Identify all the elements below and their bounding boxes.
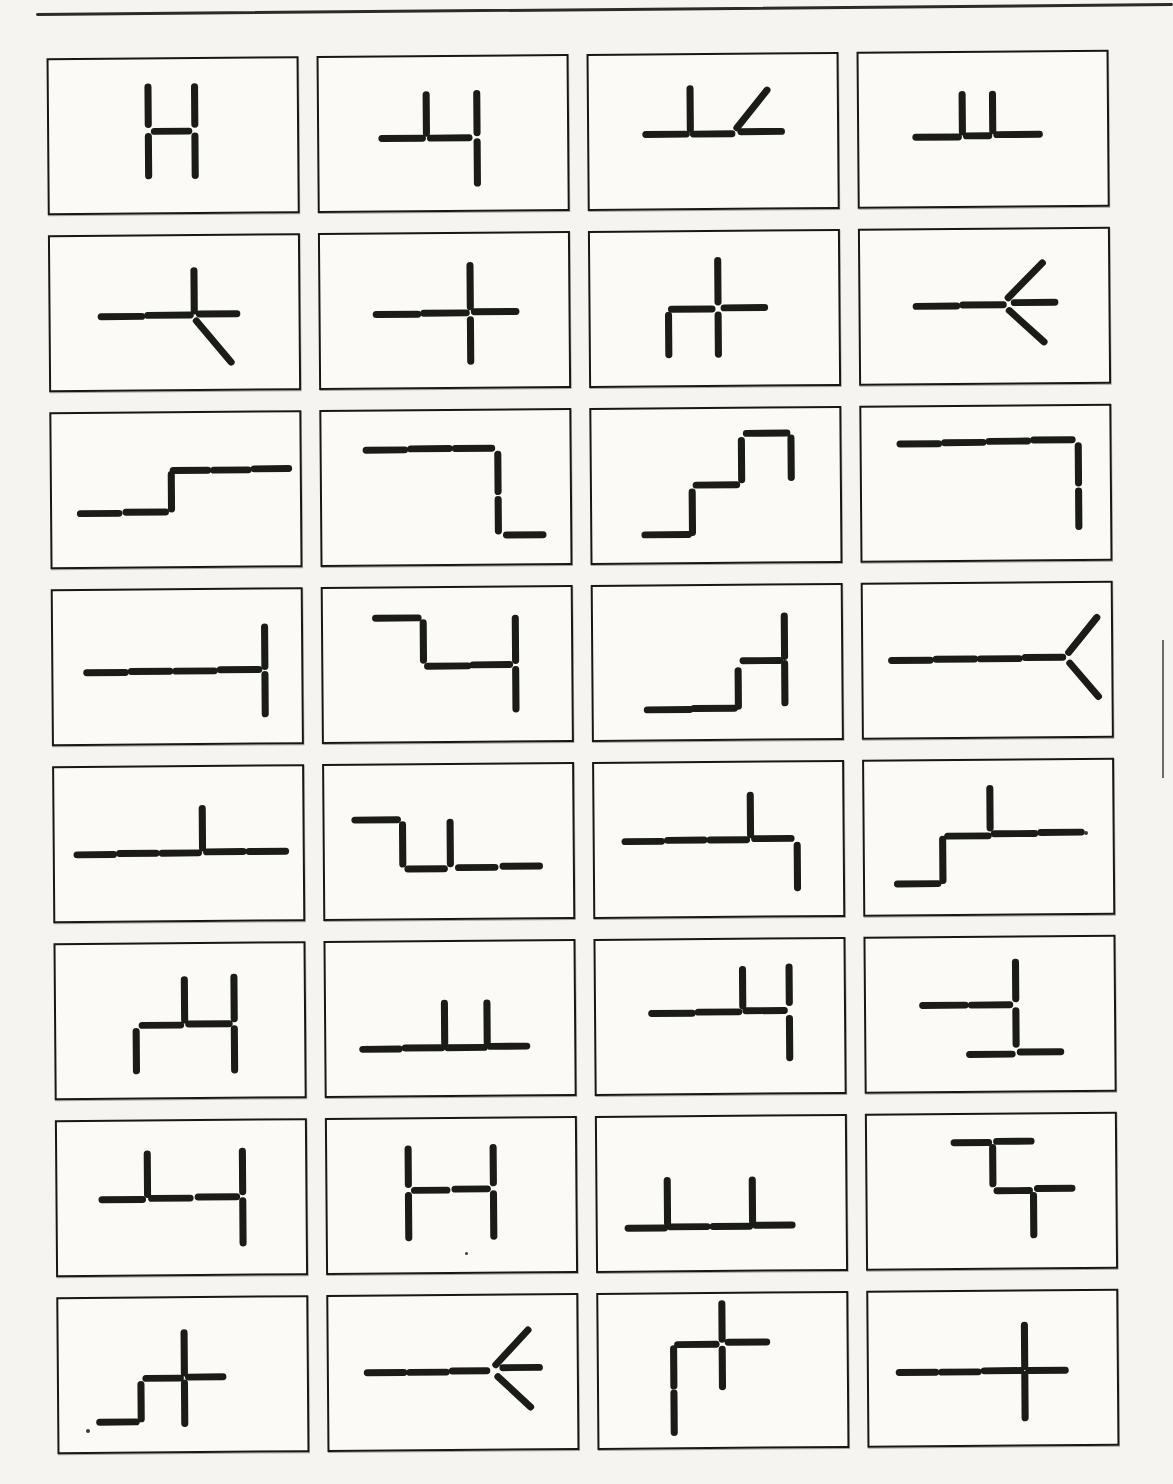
matchstick-figure-cross-with-diagonal-leg	[50, 235, 299, 390]
figure-card-r3c3	[589, 406, 842, 565]
matchstick-figure-line-crossbar-right	[53, 589, 302, 744]
matchstick-figure-line-fork-right	[863, 583, 1112, 738]
figure-card-r7c1	[55, 1118, 308, 1277]
matchstick-figure-wide-h	[327, 1118, 576, 1273]
stick-segment	[1008, 263, 1043, 298]
figure-card-r6c1	[53, 941, 306, 1100]
matchstick-figure-line-wide-double-tick	[597, 1116, 846, 1271]
scan-speck	[465, 1252, 468, 1255]
figure-card-r4c4	[861, 581, 1114, 740]
figure-card-r5c4	[862, 758, 1115, 917]
matchstick-figure-arrow-left-three-branch	[860, 229, 1109, 384]
matchstick-figure-drop-double-stem	[324, 764, 573, 919]
matchstick-figure-top-bar-right-drop	[861, 406, 1110, 561]
figure-card-r4c3	[591, 583, 844, 742]
matchstick-figure-four-like-right	[595, 939, 844, 1094]
matchstick-figure-line-tick-up-drop	[594, 762, 843, 917]
figure-card-r3c2	[319, 408, 572, 567]
figure-card-r6c3	[593, 937, 846, 1096]
stick-segment	[496, 1330, 529, 1365]
matchstick-figure-long-line-tick-up	[54, 766, 303, 921]
figure-grid	[47, 50, 1120, 1454]
figure-card-r1c1	[47, 56, 300, 215]
stick-segment	[1070, 663, 1099, 697]
figure-card-r3c4	[859, 404, 1112, 563]
figure-card-r8c2	[326, 1293, 579, 1452]
matchstick-figure-four-like	[319, 56, 568, 211]
matchstick-figure-arrow-left-full	[328, 1295, 577, 1450]
figure-card-r8c4	[866, 1289, 1119, 1448]
page-top-rule	[36, 3, 1173, 16]
matchstick-figure-top-bar-drop	[321, 410, 570, 565]
stick-segment	[498, 1376, 531, 1407]
figure-card-r5c2	[322, 762, 575, 921]
figure-card-r6c2	[323, 939, 576, 1098]
stick-segment	[196, 321, 231, 363]
figure-card-r8c1	[56, 1295, 309, 1454]
stick-segment	[1068, 618, 1097, 653]
figure-card-r3c1	[49, 410, 302, 569]
stick-segment	[1009, 310, 1044, 342]
figure-card-r7c3	[595, 1114, 848, 1273]
figure-card-r1c3	[587, 52, 840, 211]
matchstick-figure-line-double-tick	[325, 941, 574, 1096]
figure-card-r2c3	[588, 229, 841, 388]
page-edge-mark	[1162, 640, 1164, 778]
matchstick-figure-step-cross	[593, 585, 842, 740]
matchstick-figure-perp-with-diagonal	[589, 54, 838, 209]
figure-card-r5c3	[592, 760, 845, 919]
matchstick-figure-step-line-tick-up	[864, 760, 1113, 915]
figure-card-r2c4	[858, 227, 1111, 386]
figure-card-r2c1	[48, 233, 301, 392]
matchstick-figure-plus-cross	[320, 233, 569, 388]
figure-card-r8c3	[596, 1291, 849, 1450]
figure-card-r5c1	[52, 764, 305, 923]
matchstick-figure-long-line-plus	[868, 1291, 1117, 1446]
scan-speck	[1084, 831, 1088, 835]
figure-card-r7c4	[865, 1112, 1118, 1271]
matchstick-figure-four-with-leg	[56, 943, 305, 1098]
figure-card-r2c2	[318, 231, 571, 390]
figure-card-r4c1	[51, 587, 304, 746]
figure-card-r7c2	[325, 1116, 578, 1275]
matchstick-figure-step-up	[51, 412, 300, 567]
matchstick-figure-staircase-up	[591, 408, 840, 563]
stick-segment	[737, 90, 768, 128]
scan-speck	[86, 1429, 90, 1433]
matchstick-figure-h-shape	[49, 58, 298, 213]
figure-card-r4c2	[321, 585, 574, 744]
matchstick-figure-double-perp	[859, 52, 1108, 207]
matchstick-figure-zigzag-cross	[323, 587, 572, 742]
figure-card-r1c4	[857, 50, 1110, 209]
matchstick-figure-three-dash-four	[57, 1120, 306, 1275]
matchstick-figure-cross-with-two-legs	[590, 231, 839, 386]
matchstick-figure-tee-stack	[865, 937, 1114, 1092]
matchstick-figure-double-tee-steps	[867, 1114, 1116, 1269]
matchstick-figure-gamma-plus	[598, 1293, 847, 1448]
figure-card-r6c4	[863, 935, 1116, 1094]
figure-card-r1c2	[317, 54, 570, 213]
matchstick-figure-step-plus	[58, 1297, 307, 1452]
